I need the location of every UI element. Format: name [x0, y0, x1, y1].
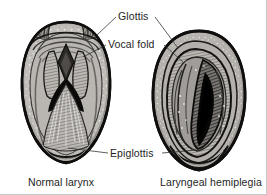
annotation-label-epiglottis: Epiglottis [110, 147, 154, 159]
specimen-normal-larynx [22, 11, 110, 163]
specimen-laryngeal-hemiplegia [153, 31, 245, 170]
figure-canvas: Glottis Vocal fold Epiglottis Normal lar… [0, 0, 267, 195]
annotation-label-vocal-fold: Vocal fold [108, 38, 155, 50]
leader-glottis-right [155, 17, 178, 48]
larynx-comparison-figure: Glottis Vocal fold Epiglottis Normal lar… [0, 0, 267, 195]
caption-normal-larynx: Normal larynx [28, 176, 95, 188]
caption-laryngeal-hemiplegia: Laryngeal hemiplegia [160, 176, 262, 188]
leader-glottis-left [97, 17, 116, 35]
annotation-label-glottis: Glottis [118, 10, 148, 22]
